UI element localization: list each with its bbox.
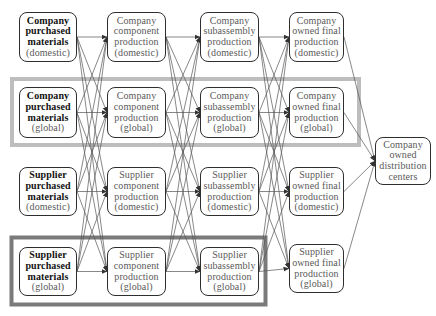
node-company-owned-distribution-centers: Company owned distribution centers [375, 137, 431, 185]
node-supplier-purchased-materials-global: Supplier purchased materials (global) [19, 247, 77, 296]
node-label-line: purchased [25, 102, 70, 113]
node-label-line: (global) [300, 279, 332, 290]
node-company-component-production-domestic: Company component production (domestic) [107, 12, 166, 62]
node-company-owned-final-production-domestic: Company owned final production (domestic… [289, 12, 344, 62]
node-supplier-subassembly-production-domestic: Supplier subassembly production (domesti… [200, 167, 259, 216]
node-company-purchased-materials-global: Company purchased materials (global) [19, 87, 77, 138]
node-label-line: production [294, 37, 338, 48]
node-supplier-subassembly-production-global: Supplier subassembly production (global) [200, 247, 259, 296]
node-label-line: owned final [292, 102, 341, 113]
node-supplier-component-production-global: Supplier component production (global) [107, 247, 166, 296]
node-supplier-purchased-materials-domestic: Supplier purchased materials (domestic) [19, 167, 77, 216]
node-label-line: (global) [300, 123, 332, 134]
node-label-line: production [207, 37, 251, 48]
node-label-line: (domestic) [208, 48, 252, 59]
node-label-line: owned final [292, 181, 341, 192]
node-label-line: component [114, 102, 159, 113]
node-label-line: distribution [379, 161, 426, 172]
node-company-subassembly-production-domestic: Company subassembly production (domestic… [200, 12, 259, 62]
node-supplier-owned-final-production-domestic: Supplier owned final production (domesti… [289, 167, 344, 216]
node-label-line: (domestic) [295, 202, 339, 213]
node-label-line: (global) [120, 123, 152, 134]
node-label-line: subassembly [203, 261, 255, 272]
node-label-line: subassembly [203, 181, 255, 192]
node-label-line: (global) [213, 282, 245, 293]
node-label-line: (domestic) [115, 202, 159, 213]
node-company-subassembly-production-global: Company subassembly production (global) [200, 87, 259, 138]
node-label-line: (domestic) [115, 48, 159, 59]
node-label-line: (global) [32, 282, 64, 293]
node-label-line: centers [388, 172, 417, 183]
node-label-line: (domestic) [26, 48, 70, 59]
node-label-line: owned final [292, 258, 341, 269]
supply-chain-diagram: Company purchased materials (domestic) C… [0, 0, 436, 316]
node-label-line: (global) [213, 123, 245, 134]
node-label-line: (global) [32, 123, 64, 134]
node-supplier-owned-final-production-global: Supplier owned final production (global) [289, 244, 344, 293]
node-label-line: (domestic) [208, 202, 252, 213]
node-label-line: (domestic) [26, 202, 70, 213]
node-label-line: purchased [25, 261, 70, 272]
node-company-purchased-materials-domestic: Company purchased materials (domestic) [19, 12, 77, 62]
node-supplier-component-production-domestic: Supplier component production (domestic) [107, 167, 166, 216]
flow-arrow [344, 161, 375, 269]
node-label-line: component [114, 181, 159, 192]
node-label-line: production [114, 37, 158, 48]
node-company-owned-final-production-global: Company owned final production (global) [289, 87, 344, 138]
node-label-line: purchased [25, 181, 70, 192]
node-label-line: subassembly [203, 102, 255, 113]
node-label-line: component [114, 261, 159, 272]
node-label-line: (domestic) [295, 48, 339, 59]
node-label-line: materials [28, 37, 69, 48]
node-company-component-production-global: Company component production (global) [107, 87, 166, 138]
node-label-line: (global) [120, 282, 152, 293]
